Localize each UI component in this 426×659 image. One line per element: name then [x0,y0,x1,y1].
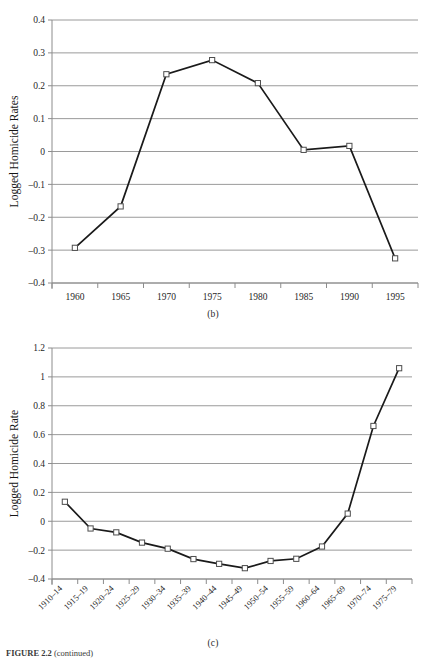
data-point-marker [210,58,215,63]
x-axis-tick-label: 1920–24 [87,583,116,612]
data-point-marker [397,366,402,371]
x-axis-tick-label: 1945–49 [216,583,244,611]
data-point-marker [191,556,196,561]
data-point-marker [217,561,222,566]
x-axis-tick-label: 1930–34 [139,583,168,612]
x-axis-tick-label: 1960 [65,292,84,302]
y-axis-title: Logged Homicide Rate [8,410,21,517]
x-axis-tick-label: 1965–69 [319,583,347,611]
x-axis-tick-label: 1925–29 [113,583,141,611]
data-point-marker [118,204,123,209]
x-axis-tick-label: 1975 [203,292,222,302]
x-axis-tick-label: 1960–64 [293,583,322,612]
x-axis-tick-label: 1935–39 [165,583,193,611]
y-axis-tick-label: –0.2 [27,546,45,556]
x-axis-tick-label: 1965 [111,292,130,302]
chart-panel-c: 1.210.80.60.40.20–0.2–0.41910–141915–191… [0,330,426,659]
y-axis-tick-label: –0.1 [27,180,45,190]
data-point-marker [255,81,260,86]
y-axis-title: Logged Homicide Rates [8,95,21,207]
data-point-marker [345,511,350,516]
data-point-marker [242,566,247,571]
panel-label-b: (b) [0,309,426,319]
data-point-marker [88,526,93,531]
y-axis-tick-label: 0.3 [33,48,45,58]
x-axis-tick-label: 1910–14 [36,583,65,612]
data-point-marker [301,147,306,152]
y-axis-tick-label: 0.2 [33,488,45,498]
data-point-marker [268,558,273,563]
figure-caption-label: FIGURE 2.2 [6,648,52,658]
y-axis-tick-label: –0.3 [27,246,45,256]
y-axis-tick-label: –0.4 [27,574,45,584]
x-axis-tick-label: 1955–59 [267,583,295,611]
x-axis-tick-label: 1990 [340,292,359,302]
x-axis-tick-label: 1950–54 [242,583,271,612]
x-axis-tick-label: 1975–79 [370,583,398,611]
y-axis-tick-label: 0 [40,147,45,157]
data-point-marker [347,143,352,148]
y-axis-tick-label: –0.4 [27,278,45,288]
x-axis-tick-label: 1995 [386,292,405,302]
x-axis-tick-label: 1985 [294,292,313,302]
y-axis-tick-label: 1 [40,372,45,382]
figure-caption: FIGURE 2.2 (continued) [6,648,306,659]
data-point-marker [114,530,119,535]
y-axis-tick-label: 0.4 [33,15,45,25]
data-point-marker [393,256,398,261]
y-axis-tick-label: –0.2 [27,213,45,223]
line-chart-c: 1.210.80.60.40.20–0.2–0.41910–141915–191… [0,330,426,646]
data-series-line [75,60,395,258]
y-axis-tick-label: 0.6 [33,430,45,440]
y-axis-tick-label: 0.1 [33,114,45,124]
data-point-marker [371,423,376,428]
data-point-marker [62,499,67,504]
y-axis-tick-label: 0 [40,517,45,527]
x-axis-tick-label: 1970 [157,292,176,302]
data-point-marker [164,72,169,77]
x-axis-tick-label: 1915–19 [62,583,90,611]
data-point-marker [139,540,144,545]
y-axis-tick-label: 0.8 [33,401,45,411]
panel-label-c: (c) [0,638,426,648]
data-series-line [65,368,399,568]
data-point-marker [319,544,324,549]
data-point-marker [165,546,170,551]
y-axis-tick-label: 0.4 [33,459,45,469]
x-axis-tick-label: 1940–44 [190,583,219,612]
data-point-marker [294,556,299,561]
line-chart-b: 0.40.30.20.10–0.1–0.2–0.3–0.419601965197… [0,0,426,312]
y-axis-tick-label: 0.2 [33,81,45,91]
figure-caption-rest: (continued) [52,648,93,658]
figure-page: 0.40.30.20.10–0.1–0.2–0.3–0.419601965197… [0,0,426,659]
x-axis-tick-label: 1980 [248,292,267,302]
x-axis-tick-label: 1970–74 [345,583,374,612]
data-point-marker [72,245,77,250]
chart-panel-b: 0.40.30.20.10–0.1–0.2–0.3–0.419601965197… [0,0,426,330]
y-axis-tick-label: 1.2 [33,343,45,353]
